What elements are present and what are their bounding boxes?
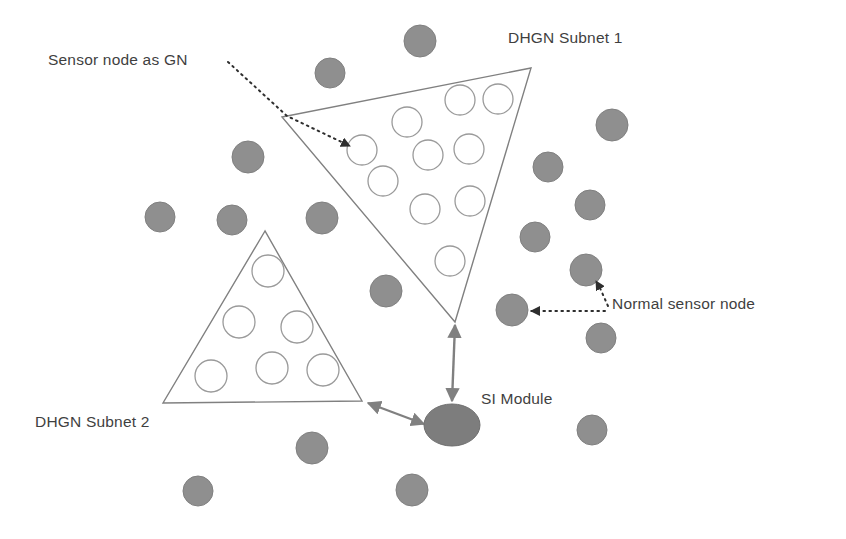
gn-node[interactable] bbox=[347, 135, 377, 165]
normal-sensor-node-leader-upper bbox=[596, 281, 608, 306]
normal-sensor-node[interactable] bbox=[145, 202, 175, 232]
gn-node[interactable] bbox=[307, 354, 339, 386]
normal-sensor-node[interactable] bbox=[575, 190, 605, 220]
diagram-canvas: Sensor node as GN DHGN Subnet 1 DHGN Sub… bbox=[0, 0, 846, 539]
subnet-2-to-si-module-connector[interactable] bbox=[368, 403, 424, 424]
normal-sensor-node[interactable] bbox=[183, 476, 213, 506]
gn-node[interactable] bbox=[445, 85, 475, 115]
gn-node[interactable] bbox=[195, 360, 227, 392]
gn-node[interactable] bbox=[252, 255, 284, 287]
gn-node[interactable] bbox=[368, 166, 398, 196]
normal-sensor-node[interactable] bbox=[306, 202, 338, 234]
normal-sensor-node[interactable] bbox=[217, 205, 247, 235]
gn-node[interactable] bbox=[483, 84, 513, 114]
subnet-1-to-si-module-connector[interactable] bbox=[452, 325, 455, 401]
normal-sensor-node[interactable] bbox=[496, 294, 528, 326]
label-sensor-node-as-gn: Sensor node as GN bbox=[48, 51, 188, 69]
si-module-node[interactable] bbox=[424, 404, 480, 446]
normal-sensor-node[interactable] bbox=[232, 141, 264, 173]
normal-sensor-node[interactable] bbox=[596, 109, 628, 141]
dhgn-subnet-1-group[interactable] bbox=[282, 68, 531, 322]
gn-node[interactable] bbox=[435, 246, 465, 276]
gn-node[interactable] bbox=[455, 186, 485, 216]
normal-sensor-node[interactable] bbox=[586, 323, 616, 353]
normal-sensor-node[interactable] bbox=[404, 25, 436, 57]
normal-sensor-node[interactable] bbox=[520, 222, 550, 252]
normal-sensor-node[interactable] bbox=[577, 415, 607, 445]
network-topology-figure bbox=[0, 0, 846, 539]
dhgn-subnet-2-group[interactable] bbox=[163, 231, 362, 403]
gn-node[interactable] bbox=[454, 134, 484, 164]
label-dhgn-subnet-1: DHGN Subnet 1 bbox=[508, 29, 623, 47]
normal-sensor-node[interactable] bbox=[315, 58, 345, 88]
label-si-module: SI Module bbox=[481, 390, 553, 408]
normal-sensor-node[interactable] bbox=[396, 474, 428, 506]
normal-sensor-node[interactable] bbox=[370, 275, 402, 307]
gn-node[interactable] bbox=[256, 352, 288, 384]
normal-sensor-node[interactable] bbox=[570, 254, 602, 286]
gn-node[interactable] bbox=[223, 306, 255, 338]
normal-sensor-node[interactable] bbox=[296, 432, 328, 464]
label-dhgn-subnet-2: DHGN Subnet 2 bbox=[35, 413, 150, 431]
gn-node[interactable] bbox=[392, 107, 422, 137]
gn-node[interactable] bbox=[281, 311, 313, 343]
label-normal-sensor-node: Normal sensor node bbox=[612, 295, 755, 313]
gn-node[interactable] bbox=[410, 194, 440, 224]
normal-sensor-node[interactable] bbox=[533, 152, 563, 182]
gn-node[interactable] bbox=[413, 140, 443, 170]
